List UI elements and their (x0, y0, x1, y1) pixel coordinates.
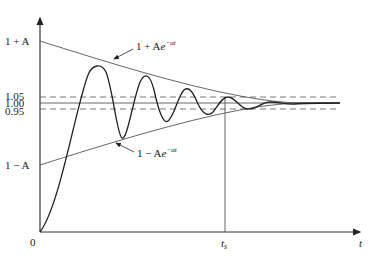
upper-envelope-curve (40, 41, 340, 103)
lower-envelope-curve (40, 103, 340, 165)
label-origin: 0 (30, 236, 36, 248)
label-1-plus-A: 1 + A (5, 35, 30, 47)
damped-response-diagram: 1 + A 1.05 1.00 0.95 1 − A 0 ts t 1 + Ae… (0, 0, 372, 258)
response-curve (40, 66, 340, 232)
lower-annotation-arrow (116, 143, 134, 152)
label-1-minus-A: 1 − A (5, 159, 30, 171)
label-time-axis: t (359, 237, 363, 249)
upper-envelope-label: 1 + Ae−αt (136, 39, 177, 52)
label-0.95: 0.95 (5, 105, 25, 117)
lower-envelope-label: 1 − Ae−αt (137, 146, 178, 159)
label-settling-time: ts (221, 237, 227, 251)
upper-annotation-arrow (114, 49, 133, 59)
